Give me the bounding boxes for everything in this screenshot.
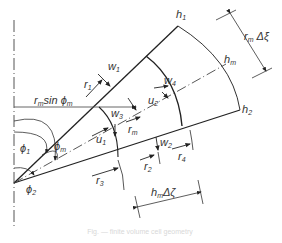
lower-arc-ext (118, 160, 124, 190)
w4-arrow (154, 86, 168, 88)
label-w3: w3 (111, 107, 123, 120)
label-rm-sin-phim: rmsin ϕm (34, 94, 73, 107)
label-w4: w4 (164, 74, 176, 87)
label-phi2: ϕ2 (26, 183, 36, 196)
label-r1: r1 (84, 78, 92, 91)
label-phim: ϕm (54, 140, 66, 153)
label-u2: u2 (148, 94, 158, 107)
outer-arc (178, 26, 240, 110)
w2-arrow (156, 137, 158, 150)
label-rm-dxi: rm Δξ (244, 30, 270, 43)
right-arc-ext (190, 130, 193, 150)
w3-arrow (128, 98, 136, 110)
label-h1: h1 (176, 8, 186, 21)
label-r4: r4 (178, 150, 186, 163)
label-r3: r3 (96, 174, 104, 187)
inner-arc (146, 56, 182, 126)
label-rm: rm (128, 123, 138, 136)
label-h2: h2 (242, 103, 252, 116)
rm-arrow (126, 117, 140, 122)
rm-dxi-ext2 (252, 68, 272, 78)
figure-caption: Fig. — finite volume cell geometry (20, 228, 260, 235)
lower-boundary-line (14, 110, 240, 183)
r2-tick (158, 152, 160, 164)
w1-arrow (98, 74, 110, 86)
r4-arrow (172, 144, 190, 149)
label-w2: w2 (160, 136, 172, 149)
phi1-arc (14, 132, 47, 153)
label-w1: w1 (108, 60, 120, 73)
label-u1: u1 (96, 133, 106, 146)
label-hm: hm (224, 53, 236, 66)
finite-volume-cell-diagram: h1 hm h2 rm Δξ hmΔζ rmsin ϕm w1 r1 w3 rm… (0, 0, 282, 243)
label-r2: r2 (144, 160, 152, 173)
label-hm-dzeta: hmΔζ (151, 186, 176, 199)
u2-arrow (162, 92, 168, 98)
label-phi1: ϕ1 (20, 142, 30, 155)
